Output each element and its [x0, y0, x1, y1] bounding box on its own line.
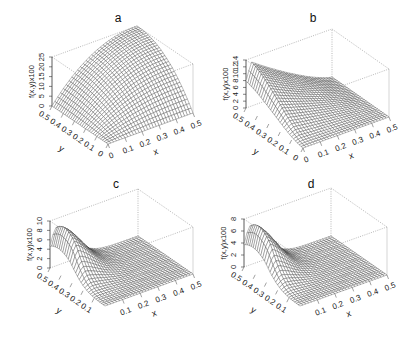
z-tick-label: 2 [35, 257, 44, 261]
z-tick-label: 6 [229, 229, 238, 233]
box-edge [50, 189, 138, 221]
y-tick-label: 0 [291, 153, 300, 163]
z-axis-label: f(x,y)x100 [25, 228, 34, 261]
panel-title: d [308, 177, 315, 191]
y-axis-label: y [252, 146, 262, 157]
y-tick-label: 0.2 [265, 135, 280, 149]
surface-mesh [50, 226, 193, 306]
x-tick [317, 300, 319, 304]
z-tick-label: 6 [35, 238, 44, 242]
panel-c: c0246810f(x,y)x1000.10.20.30.40.5x0.10.2… [25, 177, 203, 319]
x-axis-label: x [345, 308, 353, 319]
y-tick [61, 114, 63, 118]
x-tick-label: 0.3 [349, 293, 363, 305]
x-tick [389, 117, 391, 121]
x-tick [370, 281, 372, 285]
y-tick-label: 0 [96, 149, 105, 159]
y-tick [255, 116, 257, 120]
x-tick-label: 0.3 [351, 135, 365, 147]
x-tick [159, 125, 161, 129]
x-axis-label: x [150, 308, 158, 319]
x-tick-label: 0.4 [172, 286, 186, 298]
z-tick-label: 0 [35, 266, 44, 270]
x-tick-label: 0.4 [368, 129, 382, 141]
y-tick [92, 298, 94, 302]
x-tick [335, 294, 337, 298]
x-tick-label: 0.2 [331, 299, 345, 311]
z-axis: 02468101214f(x,y)x100 [221, 56, 246, 110]
x-tick [355, 129, 357, 133]
x-tick-label: 0.5 [189, 118, 203, 130]
x-tick [337, 136, 339, 140]
x-tick-label: 0.2 [334, 141, 348, 153]
panel-a: a0510152025f(x,y)x10000.10.20.30.40.5x00… [27, 11, 203, 161]
z-axis: 0510152025f(x,y)x100 [27, 53, 52, 108]
x-tick [175, 280, 177, 284]
box-edge [244, 188, 331, 219]
surface-mesh [244, 225, 387, 306]
z-tick-label: 4 [35, 247, 44, 251]
x-tick-label: 0.3 [154, 292, 168, 304]
z-tick-label: 15 [37, 72, 46, 80]
z-tick-label: 4 [229, 241, 238, 245]
z-axis-label: f(x,y)x100 [221, 68, 230, 101]
y-axis-label: y [57, 143, 67, 154]
x-tick [303, 148, 305, 152]
box-edge [331, 188, 387, 227]
y-tick-label: 0.1 [82, 139, 97, 153]
x-tick-label: 0.1 [314, 305, 328, 317]
y-tick [276, 290, 278, 294]
z-tick-label: 5 [37, 94, 46, 98]
x-tick [108, 144, 110, 148]
x-tick [158, 287, 160, 291]
y-tick [81, 291, 83, 295]
panel-d: d02468f(x,y)x1000.10.20.30.40.5x0.10.20.… [219, 177, 397, 319]
z-axis-label: f(x,y)x100 [27, 65, 36, 98]
x-axis-label: x [152, 146, 160, 157]
surface-mesh [52, 26, 193, 144]
x-tick-label: 0.4 [366, 287, 380, 299]
y-tick-label: 0.1 [277, 143, 292, 157]
surface-mesh [246, 62, 389, 148]
x-tick [320, 142, 322, 146]
x-tick [142, 132, 144, 136]
x-tick-label: 0.4 [172, 125, 186, 137]
x-tick-label: 0.1 [317, 147, 331, 159]
y-tick [244, 108, 246, 112]
z-tick-label: 8 [35, 228, 44, 232]
z-tick-label: 20 [37, 63, 46, 71]
z-tick-label: 14 [231, 56, 240, 64]
x-tick [193, 113, 195, 117]
y-tick [278, 132, 280, 136]
x-tick-label: 0 [108, 150, 116, 160]
z-tick-label: 25 [37, 53, 46, 61]
z-tick-label: 8 [229, 217, 238, 221]
x-tick [123, 300, 125, 304]
y-tick [106, 144, 108, 148]
z-tick-label: 2 [229, 253, 238, 257]
y-tick-label: 0.4 [243, 119, 258, 133]
z-tick-label: 0 [37, 104, 46, 108]
panel-title: a [115, 11, 122, 25]
x-tick [352, 287, 354, 291]
x-tick [140, 293, 142, 297]
panel-title: c [113, 177, 119, 191]
x-tick-label: 0.5 [383, 280, 397, 292]
x-tick-label: 0.5 [189, 279, 203, 291]
y-tick [301, 148, 303, 152]
x-tick [193, 274, 195, 278]
x-tick [387, 275, 389, 279]
z-axis: 02468f(x,y)x100 [219, 217, 244, 269]
y-tick [59, 276, 61, 280]
x-axis-label: x [347, 150, 355, 161]
z-tick-label: 10 [35, 217, 44, 225]
x-tick [176, 119, 178, 123]
x-tick-label: 0.2 [138, 137, 152, 149]
x-tick-label: 0 [303, 154, 311, 164]
y-tick [72, 121, 74, 125]
y-tick [242, 267, 244, 271]
y-tick [287, 298, 289, 302]
z-axis-label: f(x,y)x100 [219, 227, 228, 260]
panel-b: b02468101214f(x,y)x10000.10.20.30.40.5x0… [221, 11, 399, 165]
y-axis-label: y [249, 305, 259, 316]
